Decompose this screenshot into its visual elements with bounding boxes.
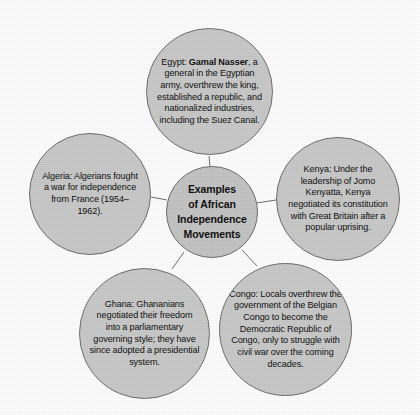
center-line-4: Movements [184, 228, 241, 240]
bubble-egypt[interactable]: Egypt: Gamal Nasser, a general in the Eg… [146, 28, 273, 155]
bubble-kenya[interactable]: Kenya: Under the leadership of Jomo Keny… [276, 137, 400, 261]
bubble-diagram: Egypt: Gamal Nasser, a general in the Eg… [0, 0, 420, 415]
center-line-2: of African [188, 198, 235, 210]
bubble-egypt-prefix: Egypt: [161, 57, 188, 67]
bubble-algeria[interactable]: Algeria: Algerians fought a war for inde… [29, 133, 151, 255]
bubble-egypt-text: Egypt: Gamal Nasser, a general in the Eg… [147, 57, 272, 127]
connector-center-algeria [151, 197, 167, 200]
bubble-center-text: Examplesof AfricanIndependenceMovements [171, 182, 252, 242]
bubble-center-topic[interactable]: Examplesof AfricanIndependenceMovements [166, 166, 258, 258]
bubble-algeria-text: Algeria: Algerians fought a war for inde… [30, 171, 150, 218]
bubble-egypt-emphasis: Gamal Nasser [189, 57, 248, 67]
center-line-3: Independence [177, 213, 246, 225]
bubble-congo[interactable]: Congo: Locals overthrew the government o… [219, 263, 352, 396]
connector-center-kenya [257, 200, 276, 203]
center-line-1: Examples [188, 183, 236, 195]
connector-center-ghana [172, 252, 184, 269]
connector-center-congo [242, 250, 257, 266]
bubble-ghana-text: Ghana: Ghananians negotiated their freed… [80, 299, 209, 369]
bubble-kenya-text: Kenya: Under the leadership of Jomo Keny… [277, 164, 399, 234]
bubble-congo-text: Congo: Locals overthrew the government o… [220, 289, 351, 370]
bubble-ghana[interactable]: Ghana: Ghananians negotiated their freed… [79, 268, 210, 399]
